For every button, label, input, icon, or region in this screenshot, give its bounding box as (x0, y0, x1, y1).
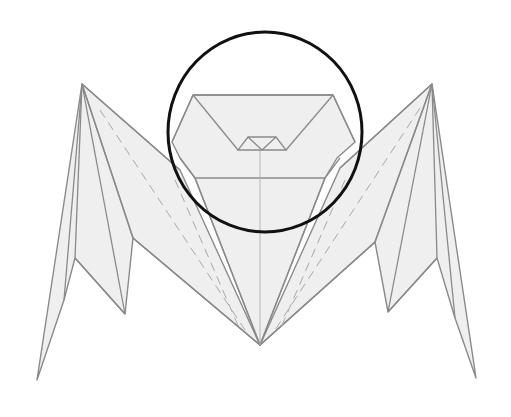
bat-fold-drawing (0, 0, 511, 417)
origami-diagram (0, 0, 511, 417)
